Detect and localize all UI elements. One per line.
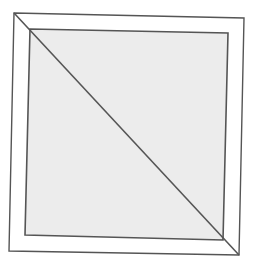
- framed-square-diagram: [0, 0, 255, 266]
